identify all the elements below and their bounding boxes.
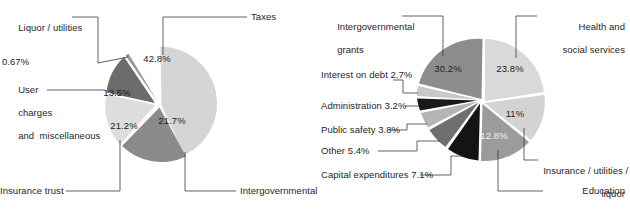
callout-insurance-utilities-liquor: Insurance / utilities / liquor [527,153,625,209]
callout-public-safety: Public safety 3.8% [321,124,400,136]
callout-user-charges-line3: and miscellaneous [18,130,100,141]
value-health-social: 23.8% [496,63,524,74]
leader-interest-on-debt [393,80,418,93]
callout-liquor-utilities-line2: 0.67% [2,56,70,68]
callout-capital-expenditures: Capital expenditures 7.1% [321,169,433,181]
pie-chart-figure: 42.8% 21.7% 21.2% 13.5% Liquor / utiliti… [0,0,630,209]
value-taxes: 42.8% [143,53,171,64]
callout-administration: Administration 3.2% [321,100,406,112]
callout-interest-on-debt: Interest on debt 2.7% [321,69,412,81]
callout-health-social-line1: Health and [579,21,625,32]
callout-other: Other 5.4% [321,145,370,157]
value-intergovernmental-grants: 30.2% [434,63,462,74]
callout-intergovernmental: Intergovernmental [240,185,317,197]
value-education: 12.8% [480,130,508,141]
callout-education: Education [545,185,625,197]
value-insurance-utilities-liquor: 11% [506,108,525,119]
callout-taxes: Taxes [251,11,276,23]
callout-liquor-utilities-line1: Liquor / utilities [18,22,82,33]
value-user-charges: 13.5% [103,87,131,98]
callout-user-charges: User charges and miscellaneous [2,72,90,153]
leader-other [378,141,440,151]
revenue-pie-panel: 42.8% 21.7% 21.2% 13.5% Liquor / utiliti… [0,0,315,209]
callout-user-charges-line2: charges [18,107,52,118]
expenditure-pie-slices [417,39,545,161]
callout-health-social-line2: social services [562,44,625,55]
callout-intergov-grants-line2: grants [337,44,364,55]
expenditure-pie-panel: 30.2% 23.8% 11% 12.8% Intergovernmental … [315,0,630,209]
leader-intergov [185,152,236,191]
value-intergovernmental: 21.7% [158,115,186,126]
callout-insurance-line1: Insurance / utilities / [543,165,628,176]
callout-user-charges-line1: User [18,84,38,95]
callout-health-social: Health and social services [529,9,625,67]
callout-intergovernmental-grants: Intergovernmental grants [321,9,405,67]
callout-intergov-grants-line1: Intergovernmental [337,21,414,32]
value-insurance-trust: 21.2% [110,120,138,131]
callout-insurance-trust: Insurance trust [0,185,62,197]
